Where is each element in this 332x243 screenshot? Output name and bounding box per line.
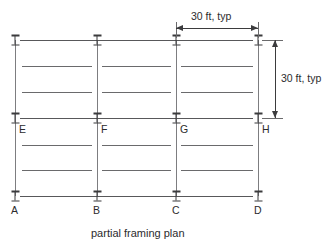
grid-label-d: D [254, 205, 262, 216]
i-beam-column-icon-g [172, 113, 181, 124]
i-beam-column-icon [11, 35, 20, 46]
framing-plan-drawing: E F G H A B C D 30 ft, typ 30 ft, typ pa… [0, 0, 332, 243]
joist-line [22, 92, 92, 93]
joist-line [22, 170, 92, 171]
joist-line [181, 145, 253, 146]
i-beam-column-icon-e [11, 113, 20, 124]
grid-label-e: E [19, 124, 26, 135]
dimension-arrow-left-icon [176, 25, 183, 31]
dimension-arrow-down-icon [272, 111, 278, 118]
i-beam-column-icon-a [11, 191, 20, 202]
dimension-label-horizontal: 30 ft, typ [191, 11, 231, 22]
dimension-label-vertical: 30 ft, typ [281, 73, 321, 84]
dimension-extension-line-bottom [262, 118, 283, 119]
i-beam-column-icon [93, 35, 102, 46]
i-beam-column-icon-f [93, 113, 102, 124]
joist-line [181, 170, 253, 171]
girder-line-top [20, 40, 253, 41]
grid-label-f: F [101, 124, 107, 135]
i-beam-column-icon-d [254, 191, 263, 202]
joist-line [22, 145, 92, 146]
joist-line [102, 66, 171, 67]
girder-line-middle [20, 118, 253, 119]
joist-line [102, 170, 171, 171]
dimension-line-horizontal [176, 28, 258, 29]
grid-label-a: A [11, 205, 18, 216]
grid-label-c: C [172, 205, 180, 216]
dimension-extension-line-right [258, 22, 259, 38]
dimension-arrow-up-icon [272, 40, 278, 47]
joist-line [181, 92, 253, 93]
joist-line [102, 145, 171, 146]
joist-line [22, 66, 92, 67]
dimension-line-vertical [275, 40, 276, 118]
drawing-caption: partial framing plan [91, 228, 185, 239]
girder-line-bottom [20, 196, 253, 197]
grid-label-g: G [180, 124, 188, 135]
i-beam-column-icon-b [93, 191, 102, 202]
dimension-arrow-right-icon [251, 25, 258, 31]
joist-line [181, 66, 253, 67]
grid-label-b: B [93, 205, 100, 216]
i-beam-column-icon-c [172, 191, 181, 202]
grid-label-h: H [262, 124, 270, 135]
joist-line [102, 92, 171, 93]
